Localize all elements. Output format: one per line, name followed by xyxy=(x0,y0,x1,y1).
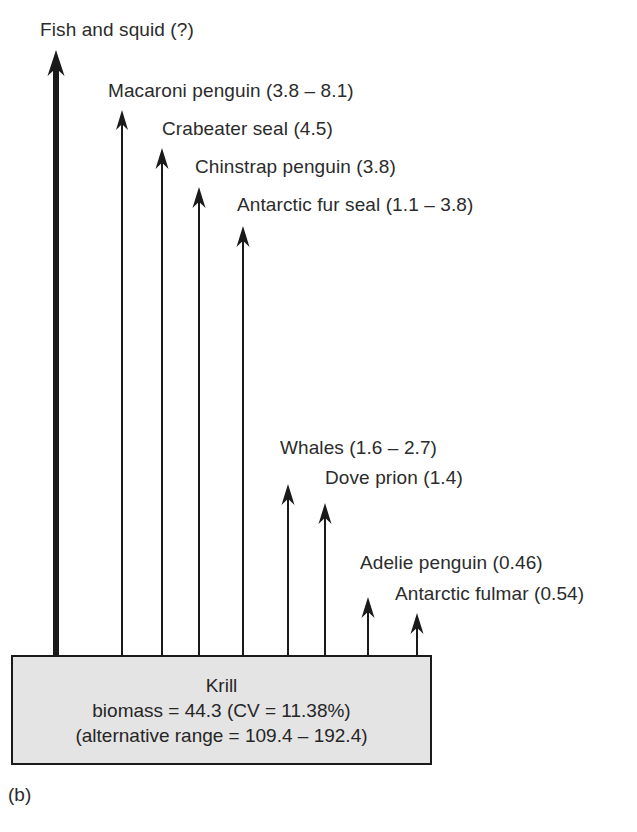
arrow-dove-prion xyxy=(319,503,332,655)
label-adelie-penguin: Adelie penguin (0.46) xyxy=(360,553,543,573)
arrow-stem xyxy=(161,160,163,655)
arrow-antarctic-fulmar xyxy=(411,613,424,655)
arrow-stem xyxy=(416,625,418,655)
label-chinstrap-penguin: Chinstrap penguin (3.8) xyxy=(195,157,396,177)
krill-source-box: Krill biomass = 44.3 (CV = 11.38%) (alte… xyxy=(11,655,432,765)
label-macaroni-penguin: Macaroni penguin (3.8 – 8.1) xyxy=(108,81,354,101)
arrow-stem xyxy=(287,496,289,655)
label-antarctic-fulmar: Antarctic fulmar (0.54) xyxy=(395,584,584,604)
arrow-macaroni-penguin xyxy=(116,110,128,655)
arrow-stem xyxy=(121,121,123,655)
arrow-adelie-penguin xyxy=(362,597,375,655)
label-whales: Whales (1.6 – 2.7) xyxy=(280,438,437,458)
krill-box-line: Krill xyxy=(206,673,238,698)
arrow-fish-and-squid xyxy=(48,50,65,655)
arrow-crabeater-seal xyxy=(156,148,169,655)
krill-box-line: (alternative range = 109.4 – 192.4) xyxy=(75,723,367,748)
krill-box-line: biomass = 44.3 (CV = 11.38%) xyxy=(92,698,350,723)
arrow-whales xyxy=(282,484,295,655)
arrow-antarctic-fur-seal xyxy=(237,226,250,655)
arrow-stem xyxy=(198,199,200,655)
arrow-stem xyxy=(367,609,369,655)
label-dove-prion: Dove prion (1.4) xyxy=(325,468,463,488)
panel-caption: (b) xyxy=(8,784,31,806)
arrow-stem xyxy=(324,515,326,655)
arrow-chinstrap-penguin xyxy=(193,187,206,655)
label-crabeater-seal: Crabeater seal (4.5) xyxy=(162,119,333,139)
label-antarctic-fur-seal: Antarctic fur seal (1.1 – 3.8) xyxy=(237,195,473,215)
krill-food-web-figure: Fish and squid (?)Macaroni penguin (3.8 … xyxy=(0,0,637,832)
arrow-stem xyxy=(53,64,59,655)
label-fish-and-squid: Fish and squid (?) xyxy=(40,20,194,40)
arrow-stem xyxy=(242,238,244,655)
